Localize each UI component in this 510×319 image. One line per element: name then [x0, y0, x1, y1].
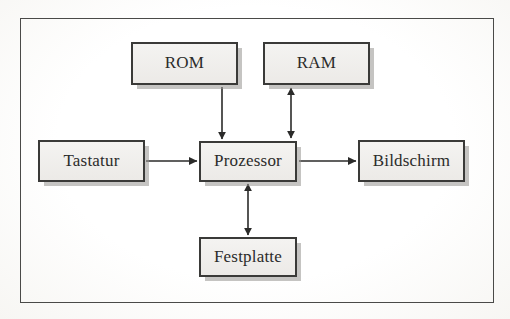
node-rom[interactable]: ROM	[131, 42, 238, 85]
node-bildschirm-label: Bildschirm	[373, 152, 451, 171]
diagram-canvas: ROM RAM Tastatur Prozessor Bildschirm Fe…	[0, 0, 510, 319]
node-bildschirm[interactable]: Bildschirm	[358, 140, 465, 182]
node-ram[interactable]: RAM	[263, 42, 370, 85]
node-festplatte[interactable]: Festplatte	[199, 237, 297, 277]
node-tastatur-label: Tastatur	[63, 152, 119, 171]
node-tastatur[interactable]: Tastatur	[38, 140, 145, 182]
node-rom-label: ROM	[165, 54, 204, 73]
node-prozessor[interactable]: Prozessor	[199, 141, 297, 182]
node-prozessor-label: Prozessor	[214, 152, 282, 171]
node-festplatte-label: Festplatte	[214, 248, 282, 267]
node-ram-label: RAM	[297, 54, 336, 73]
